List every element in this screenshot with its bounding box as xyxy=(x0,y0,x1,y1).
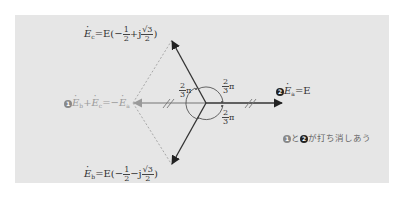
badge-1-icon: 1 xyxy=(64,100,72,108)
badge-1-icon: 1 xyxy=(283,135,291,143)
angle-label-lower-right: 23π xyxy=(222,109,234,126)
angle-arc-lower-right xyxy=(199,105,223,120)
phasor-diagram xyxy=(0,0,404,203)
badge-2-icon: 2 xyxy=(300,135,308,143)
angle-label-upper-right: 23π xyxy=(222,78,234,95)
label-sum-bc: 1Eb+Ec=−Ea xyxy=(64,98,130,109)
cancel-note: 1と2が打ち消しあう xyxy=(283,131,371,143)
dotted-line-lower xyxy=(133,103,172,165)
label-eb: Eb=E(−12−j√32) xyxy=(84,166,158,183)
badge-2-icon: 2 xyxy=(276,88,284,96)
dotted-line-upper xyxy=(133,40,172,103)
label-ec: Ec=E(−12+j√32) xyxy=(84,26,157,43)
angle-label-left: 23π xyxy=(179,82,191,99)
label-ea: 2Ea=E xyxy=(276,86,311,97)
